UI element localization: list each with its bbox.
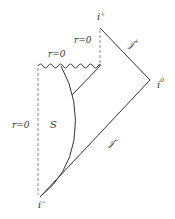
singularity-wavy-line <box>38 64 100 68</box>
label-i-plus: i+ <box>97 10 105 22</box>
star-surface-curve <box>41 66 75 196</box>
event-horizon-line <box>72 66 100 95</box>
scri-minus-line <box>40 80 150 197</box>
label-i-minus: i− <box>38 198 46 210</box>
label-scri-plus: 𝒥+ <box>127 37 139 49</box>
label-star-surface: S <box>50 119 57 130</box>
label-i-zero: i0 <box>157 76 164 90</box>
label-r0-singularity: r=0 <box>48 49 66 59</box>
scri-plus-line <box>100 28 150 80</box>
penrose-diagram: i+ 𝒥+ i0 𝒥− i− r=0 r=0 r=0 S <box>0 0 175 219</box>
label-r0-left: r=0 <box>12 120 30 130</box>
label-scri-minus: 𝒥− <box>107 136 119 148</box>
label-r0-top: r=0 <box>74 35 92 45</box>
